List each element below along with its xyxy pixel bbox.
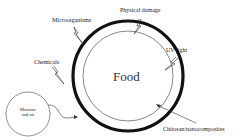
- uv-light-label: UV light: [166, 47, 187, 53]
- microorganisms-bolt-icon: [74, 27, 83, 44]
- coating-pointer-line: [159, 106, 196, 123]
- physical-damage-label: Physical damage: [120, 7, 161, 13]
- moisture-label-line2: and air: [16, 112, 40, 117]
- coating-label: Chitosan/nanocomposites: [163, 126, 225, 132]
- moisture-arrow-icon: [48, 105, 76, 118]
- microorganisms-label: Microorganisms: [52, 17, 91, 23]
- chemicals-bolt-icon: [52, 66, 64, 84]
- food-label: Food: [113, 70, 140, 83]
- moisture-label: Moisture and air: [16, 107, 40, 117]
- chemicals-label: Chemicals: [34, 59, 59, 65]
- moisture-arrowhead-icon: [74, 115, 78, 119]
